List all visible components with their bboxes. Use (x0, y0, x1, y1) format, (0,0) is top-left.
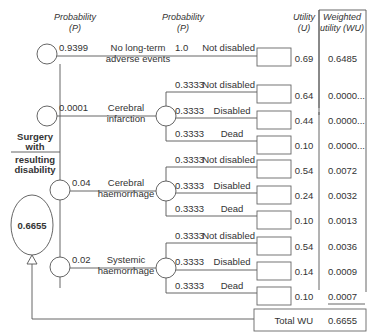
header-probability-2: Probability (162, 12, 205, 22)
branch-systemic-haemorrhage: 0.02 Systemic haemorrhage 0.3333 Not dis… (50, 230, 357, 305)
weighted-utility-value: 0.6485 (328, 53, 357, 64)
outcome-label: Disabled (214, 256, 251, 267)
utility-value: 0.14 (295, 266, 314, 277)
branch-label: Systemic (107, 254, 146, 265)
outcome-label: Dead (221, 280, 244, 291)
header-probability-1-symbol: (P) (69, 23, 81, 33)
outcome-probability: 0.3333 (175, 180, 204, 191)
result-value: 0.6655 (17, 220, 47, 231)
outcome-probability: 0.3333 (175, 128, 204, 139)
outcome-probability: 0.3333 (175, 105, 204, 116)
branch-cerebral-haemorrhage: 0.04 Cerebral haemorrhage 0.3333 Not dis… (50, 154, 357, 229)
outcome-label: Not disabled (202, 154, 255, 165)
header-probability-1: Probability (54, 12, 97, 22)
outcome-label: Dead (221, 203, 244, 214)
total-wu-value: 0.6655 (328, 315, 357, 326)
outcome-label: Not disabled (202, 42, 255, 53)
weighted-utility-value: 0.0007 (328, 291, 357, 302)
terminal-node (257, 287, 291, 305)
branch-probability: 0.0001 (59, 102, 88, 113)
branch-no-adverse-events: 0.9399 No long-term adverse events 1.0 N… (37, 42, 357, 66)
svg-text:disability: disability (14, 164, 56, 175)
utility-value: 0.44 (295, 115, 314, 126)
header-utility: Utility (293, 12, 315, 22)
utility-value: 0.64 (295, 90, 314, 101)
header-probability-2-symbol: (P) (177, 23, 189, 33)
branch-label-2: haemorrhage (98, 265, 155, 276)
branch-label-2: haemorrhage (98, 188, 155, 199)
outcome-label: Disabled (214, 105, 251, 116)
terminal-node (257, 160, 291, 178)
branch-label: No long-term (111, 42, 166, 53)
header-utility-symbol: (U) (298, 23, 311, 33)
decision-tree-diagram: Probability (P) Probability (P) Utility … (0, 0, 375, 335)
weighted-utility-value: 0.0013 (328, 215, 357, 226)
utility-value: 0.24 (295, 190, 314, 201)
chance-node (37, 106, 57, 126)
branch-cerebral-infarction: 0.0001 Cerebral infarction 0.3333 Not di… (37, 79, 365, 154)
total-wu-label: Total WU (274, 315, 313, 326)
column-headers: Probability (P) Probability (P) Utility … (54, 12, 364, 33)
branch-label: Cerebral (108, 102, 144, 113)
terminal-node (257, 237, 291, 255)
chance-node (50, 257, 70, 277)
weighted-utility-value: 0.0009 (328, 266, 357, 277)
utility-value: 0.10 (295, 215, 314, 226)
svg-text:with: with (25, 141, 45, 152)
header-weighted-utility: Weighted (323, 12, 362, 22)
utility-value: 0.69 (295, 53, 314, 64)
chance-node (37, 44, 57, 64)
branch-label-2: adverse events (106, 53, 171, 64)
utility-value: 0.54 (295, 165, 314, 176)
outcome-chance-node (156, 106, 176, 126)
utility-value: 0.10 (295, 140, 314, 151)
decision-label: Surgery with resulting disability (14, 131, 56, 175)
terminal-node (257, 48, 291, 66)
header-weighted-utility-symbol: utility (WU) (320, 23, 364, 33)
outcome-probability: 0.3333 (175, 256, 204, 267)
outcome-chance-node (156, 258, 176, 278)
terminal-node (257, 262, 291, 280)
weighted-utility-value: 0.0032 (328, 190, 357, 201)
outcome-label: Not disabled (202, 230, 255, 241)
terminal-node (257, 211, 291, 229)
weighted-utility-value: 0.0000... (328, 140, 365, 151)
weighted-utility-value: 0.0072 (328, 165, 357, 176)
outcome-probability: 0.3333 (175, 230, 204, 241)
terminal-node (257, 136, 291, 154)
outcome-label: Dead (221, 128, 244, 139)
branch-label: Cerebral (108, 177, 144, 188)
weighted-utility-value: 0.0000... (328, 90, 365, 101)
branch-probability: 0.04 (72, 177, 91, 188)
outcome-probability: 0.3333 (175, 154, 204, 165)
weighted-utility-value: 0.0000... (328, 115, 365, 126)
terminal-node (257, 85, 291, 103)
chance-node (50, 180, 70, 200)
branch-probability: 0.02 (72, 254, 91, 265)
utility-value: 0.54 (295, 241, 314, 252)
outcome-label: Not disabled (202, 79, 255, 90)
terminal-node (257, 111, 291, 129)
utility-value: 0.10 (295, 291, 314, 302)
outcome-chance-node (156, 181, 176, 201)
outcome-probability: 0.3333 (175, 79, 204, 90)
branch-label-2: infarction (107, 113, 146, 124)
terminal-node (257, 186, 291, 204)
outcome-probability: 0.3333 (175, 203, 204, 214)
outcome-label: Disabled (214, 180, 251, 191)
branch-probability: 0.9399 (59, 42, 88, 53)
outcome-probability: 1.0 (175, 42, 188, 53)
outcome-probability: 0.3333 (175, 280, 204, 291)
weighted-utility-value: 0.0036 (328, 241, 357, 252)
arrow-up-icon (27, 255, 37, 264)
